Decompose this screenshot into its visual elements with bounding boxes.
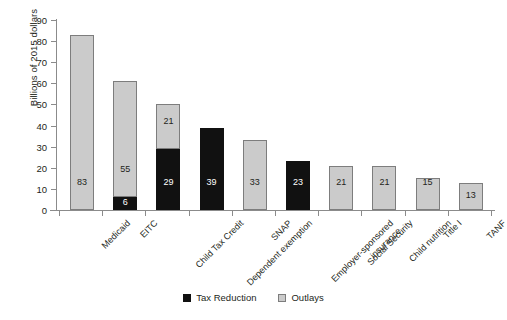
bar-group: 15 (416, 20, 440, 210)
bar-group: 23 (286, 20, 310, 210)
bar-segment-outlays: 21 (372, 166, 396, 210)
bar-value-label: 21 (330, 178, 352, 187)
bar-value-label: 29 (157, 178, 179, 187)
y-axis-tick-label: 60 (0, 78, 47, 89)
y-axis-tick-label: 70 (0, 57, 47, 68)
x-axis-tick (232, 211, 233, 216)
y-axis-tick-label: 10 (0, 183, 47, 194)
bar-group: 83 (70, 20, 94, 210)
bar-value-label: 21 (373, 178, 395, 187)
bar-value-label: 55 (114, 165, 136, 174)
y-axis-tick-label: 30 (0, 141, 47, 152)
x-axis-tick (275, 211, 276, 216)
x-axis-line (50, 210, 495, 211)
x-axis-label: Child Tax Credit (194, 218, 246, 270)
bar-value-label: 6 (114, 198, 136, 207)
x-axis-tick (361, 211, 362, 216)
legend-item: Outlays (278, 292, 323, 303)
legend-label: Outlays (291, 292, 323, 303)
y-axis-tick-label: 80 (0, 36, 47, 47)
x-axis-tick (318, 211, 319, 216)
y-axis-tick (51, 210, 57, 211)
bar-value-label: 33 (244, 178, 266, 187)
bar-group: 655 (113, 20, 137, 210)
bar-value-label: 15 (417, 178, 439, 187)
bar-segment-outlays: 13 (459, 183, 483, 210)
bar-segment-outlays: 15 (416, 178, 440, 210)
x-axis-tick (189, 211, 190, 216)
bar-value-label: 13 (460, 191, 482, 200)
y-axis-tick-label: 40 (0, 120, 47, 131)
x-axis-tick (491, 211, 492, 216)
y-axis-tick-label: 0 (0, 205, 47, 216)
y-axis-tick-label: 90 (0, 15, 47, 26)
bar-value-label: 83 (71, 178, 93, 187)
x-axis-tick (145, 211, 146, 216)
x-axis-label: EITC (138, 218, 160, 240)
legend-swatch-outlays-icon (278, 294, 286, 302)
plot-area: 83655292139332321211513 (57, 20, 494, 210)
bar-segment-tax-reduction: 29 (156, 149, 180, 210)
bar-value-label: 23 (287, 178, 309, 187)
x-axis-tick (59, 211, 60, 216)
bar-segment-outlays: 21 (156, 104, 180, 148)
bar-segment-outlays: 83 (70, 35, 94, 210)
bar-group: 13 (459, 20, 483, 210)
y-axis-tick-label: 50 (0, 99, 47, 110)
x-axis-tick (405, 211, 406, 216)
bar-segment-tax-reduction: 23 (286, 161, 310, 210)
chart-legend: Tax ReductionOutlays (0, 292, 507, 303)
bar-value-label: 21 (157, 117, 179, 126)
bar-group: 2921 (156, 20, 180, 210)
bar-segment-outlays: 33 (243, 140, 267, 210)
x-axis-tick (448, 211, 449, 216)
x-axis-tick (102, 211, 103, 216)
bar-group: 39 (200, 20, 224, 210)
x-axis-label: Medicaid (100, 218, 133, 251)
bar-segment-outlays: 21 (329, 166, 353, 210)
bar-group: 21 (372, 20, 396, 210)
legend-label: Tax Reduction (196, 292, 256, 303)
bar-value-label: 39 (201, 178, 223, 187)
legend-swatch-tax-reduction-icon (183, 294, 191, 302)
bar-group: 33 (243, 20, 267, 210)
bar-chart: Billions of 2015 dollars 010203040506070… (0, 0, 507, 320)
y-axis-tick-label: 20 (0, 162, 47, 173)
bar-segment-tax-reduction: 39 (200, 128, 224, 210)
legend-item: Tax Reduction (183, 292, 256, 303)
bar-segment-tax-reduction: 6 (113, 197, 137, 210)
bar-segment-outlays: 55 (113, 81, 137, 197)
x-axis-label: TANF (484, 218, 507, 242)
bar-group: 21 (329, 20, 353, 210)
x-axis-label: Employer-sponsored insurance (329, 218, 403, 292)
